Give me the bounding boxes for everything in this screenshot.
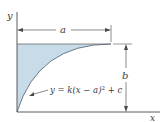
equation-rhs: + c xyxy=(105,85,123,95)
dimension-a-label: a xyxy=(60,24,66,35)
dimension-a: a xyxy=(17,24,111,42)
dimension-b-label: b xyxy=(122,70,128,81)
x-axis-label: x xyxy=(150,113,155,122)
curve-equation: y = k(x − a)2 + c xyxy=(29,85,123,97)
dimension-b: b xyxy=(122,44,128,112)
arrowhead-down-icon xyxy=(124,106,128,112)
equation-lhs: y = k(x − a) xyxy=(49,85,102,95)
y-axis-label: y xyxy=(6,10,13,21)
leader-arrowhead-icon xyxy=(29,92,34,96)
arrowhead-left-icon xyxy=(17,28,23,32)
equation-text: y = k(x − a)2 + c xyxy=(49,85,123,96)
arrowhead-right-icon xyxy=(105,28,111,32)
area-diagram: y x a b y = k(x − a)2 + c xyxy=(0,0,165,122)
arrowhead-up-icon xyxy=(124,44,128,50)
shaded-area xyxy=(17,44,111,112)
